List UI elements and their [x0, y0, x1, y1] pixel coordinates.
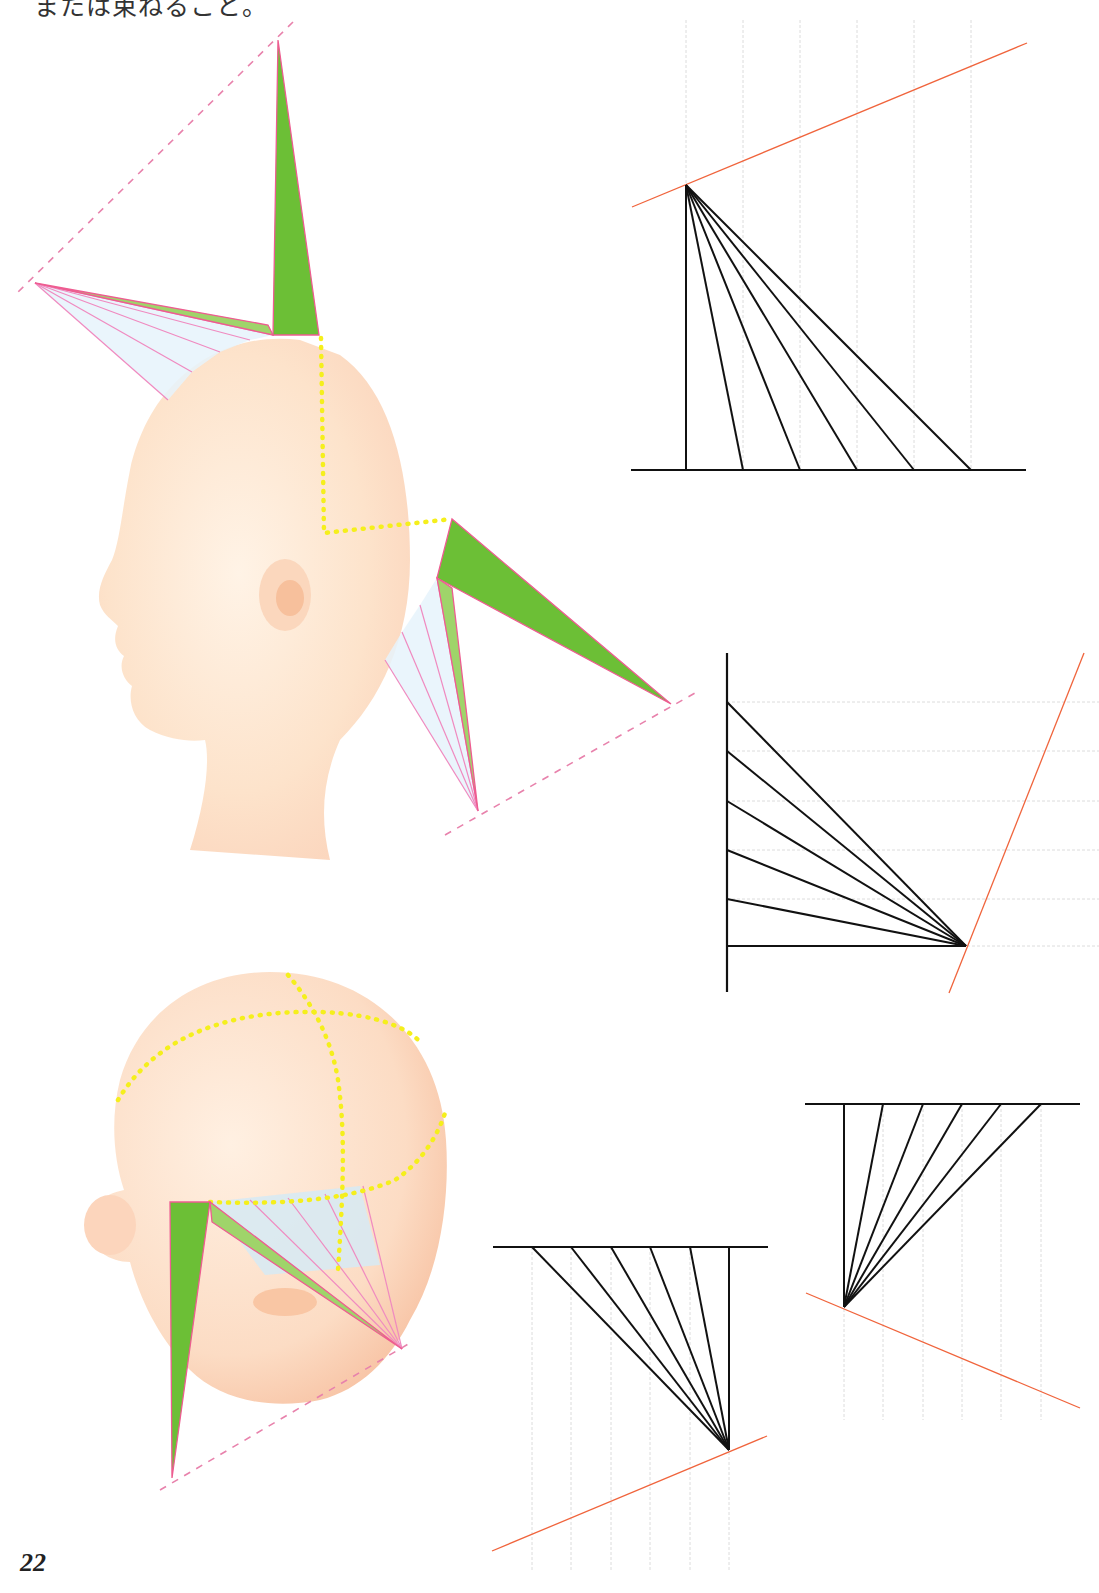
vertical-fan-diagram [631, 20, 1027, 470]
green-hair-section [273, 40, 319, 335]
diagram-canvas [0, 0, 1099, 1593]
horizontal-fan-diagram [727, 653, 1099, 993]
elevation-line [727, 751, 966, 946]
elevation-line [611, 1247, 729, 1450]
red-reference-line [632, 43, 1027, 207]
guide-dashed-line [445, 693, 695, 835]
elevation-line [727, 850, 966, 946]
guide-dashed-line [15, 22, 293, 295]
elevation-line [844, 1104, 962, 1307]
red-reference-line [492, 1436, 767, 1551]
elevation-line [690, 1247, 729, 1450]
head-silhouette [99, 339, 410, 860]
elevation-line [686, 185, 743, 470]
inverted-fan-left-diagram [492, 1247, 768, 1572]
inverted-fan-right-diagram [805, 1104, 1080, 1420]
elevation-line [686, 185, 857, 470]
elevation-line [844, 1104, 1041, 1307]
page-number: 22 [20, 1548, 46, 1578]
elevation-line [532, 1247, 729, 1450]
side-profile-head-illustration [15, 22, 452, 860]
elevation-line [686, 185, 971, 470]
red-reference-line [949, 653, 1084, 993]
back-head-illustration [84, 972, 447, 1490]
elevation-line [844, 1104, 883, 1307]
elevation-line [727, 899, 966, 946]
red-reference-line [806, 1293, 1080, 1408]
ear-icon [253, 1288, 317, 1316]
nape-section-illustration [385, 519, 695, 835]
green-hair-section-upper [437, 519, 671, 704]
elevation-line [727, 702, 966, 946]
